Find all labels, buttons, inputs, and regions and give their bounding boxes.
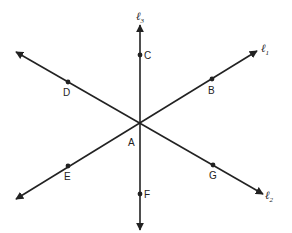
intersecting-lines-diagram: C F B D E G A ℓ3 ℓ1 ℓ2 <box>0 0 292 233</box>
point-c <box>138 53 143 58</box>
label-point-e: E <box>64 171 71 182</box>
label-line-l3: ℓ3 <box>136 10 145 25</box>
label-point-c: C <box>144 50 151 61</box>
point-b <box>210 77 215 82</box>
label-point-b: B <box>208 85 215 96</box>
label-line-l1: ℓ1 <box>261 42 269 57</box>
label-point-a: A <box>128 137 135 148</box>
point-e <box>66 164 71 169</box>
point-f <box>138 192 143 197</box>
label-point-g: G <box>209 170 217 181</box>
label-point-d: D <box>63 87 70 98</box>
label-point-f: F <box>144 189 150 200</box>
point-g <box>211 163 216 168</box>
point-d <box>66 80 71 85</box>
label-line-l2: ℓ2 <box>265 189 274 204</box>
